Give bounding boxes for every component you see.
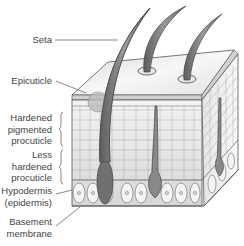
label-line: Hypodermis — [1, 185, 52, 197]
label-line: procuticle — [8, 135, 52, 147]
label-less-hardened-procuticle: Less hardened procuticle — [11, 149, 52, 184]
label-basement-membrane: Basement membrane — [7, 216, 52, 239]
label-hypodermis: Hypodermis (epidermis) — [1, 185, 52, 208]
label-seta: Seta — [32, 34, 52, 46]
label-line: Hardened — [8, 112, 52, 124]
label-line: hardened — [11, 161, 52, 173]
label-line: Basement — [7, 216, 52, 228]
label-line: membrane — [7, 228, 52, 240]
label-hardened-procuticle: Hardened pigmented procuticle — [8, 112, 52, 147]
label-line: procuticle — [11, 172, 52, 184]
label-epicuticle: Epicuticle — [11, 75, 52, 87]
label-line: Less — [11, 149, 52, 161]
label-line: pigmented — [8, 124, 52, 136]
label-line: (epidermis) — [1, 197, 52, 209]
